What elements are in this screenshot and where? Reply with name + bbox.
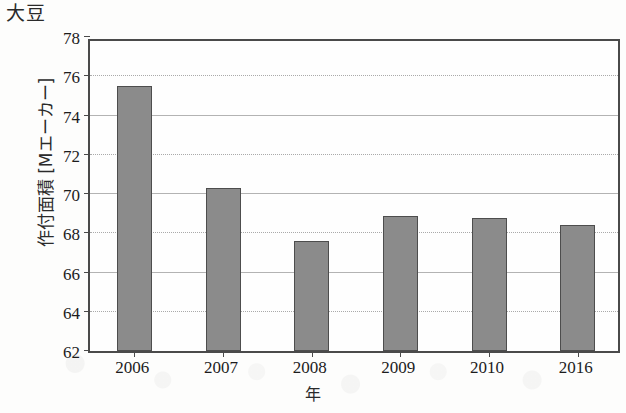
- chart-title: 大豆: [6, 2, 46, 24]
- y-tick-mark: [84, 272, 90, 273]
- y-tick-label: 72: [40, 148, 80, 165]
- y-tick-label: 64: [40, 305, 80, 322]
- gridline: [90, 154, 618, 155]
- y-tick-mark: [84, 232, 90, 233]
- x-tick-label: 2008: [270, 359, 350, 377]
- bar: [383, 216, 418, 351]
- x-tick-mark: [312, 351, 313, 357]
- gridline: [90, 115, 618, 116]
- x-tick-mark: [489, 351, 490, 357]
- x-tick-mark: [223, 351, 224, 357]
- y-tick-label: 62: [40, 344, 80, 361]
- bar: [294, 241, 329, 351]
- y-tick-label: 68: [40, 226, 80, 243]
- gridline: [90, 311, 618, 312]
- gridline: [90, 232, 618, 233]
- plot-area: [88, 39, 620, 353]
- bar: [472, 218, 507, 351]
- y-tick-mark: [84, 311, 90, 312]
- x-axis-title: 年: [0, 381, 626, 405]
- x-tick-mark: [400, 351, 401, 357]
- x-tick-mark: [134, 351, 135, 357]
- y-tick-mark: [84, 154, 90, 155]
- y-tick-mark: [84, 193, 90, 194]
- x-tick-mark: [578, 351, 579, 357]
- y-tick-label: 78: [40, 30, 80, 47]
- bar: [560, 225, 595, 351]
- y-tick-label: 70: [40, 187, 80, 204]
- x-tick-label: 2009: [358, 359, 438, 377]
- x-tick-label: 2016: [536, 359, 616, 377]
- gridline: [90, 75, 618, 76]
- y-tick-label: 66: [40, 266, 80, 283]
- y-tick-mark: [84, 350, 90, 351]
- gridline: [90, 272, 618, 273]
- x-tick-label: 2007: [181, 359, 261, 377]
- bar: [206, 188, 241, 351]
- y-tick-label: 76: [40, 69, 80, 86]
- y-tick-label: 74: [40, 109, 80, 126]
- x-tick-label: 2010: [447, 359, 527, 377]
- x-tick-label: 2006: [92, 359, 172, 377]
- y-tick-mark: [84, 75, 90, 76]
- y-tick-mark: [84, 36, 90, 37]
- gridline: [90, 193, 618, 194]
- y-tick-mark: [84, 115, 90, 116]
- bar: [117, 86, 152, 351]
- chart-figure: 大豆 作付面積 [Mエーカー] 626466687072747678 20062…: [0, 0, 626, 413]
